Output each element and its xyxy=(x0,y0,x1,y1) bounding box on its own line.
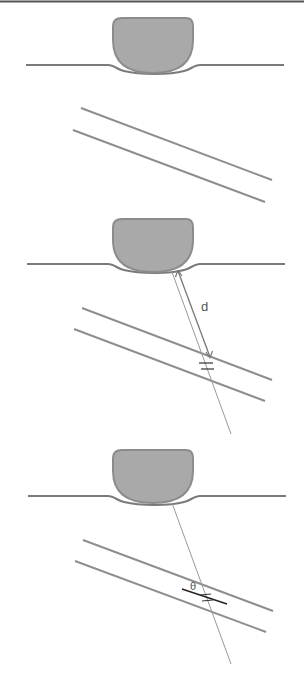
panel-1 xyxy=(26,18,284,202)
angle-mark-icon xyxy=(200,594,211,595)
panel-3: θ xyxy=(28,450,286,664)
layer-line-lower xyxy=(74,329,265,401)
blob-object xyxy=(113,450,193,503)
ray-line xyxy=(172,503,231,664)
diagram-canvas: d θ xyxy=(0,0,304,680)
angle-mark-icon xyxy=(202,600,213,601)
blob-object xyxy=(113,18,193,73)
distance-label: d xyxy=(201,299,208,314)
ray-line xyxy=(172,272,231,434)
panel-2: d xyxy=(27,219,285,434)
angle-label: θ xyxy=(190,580,196,592)
layer-line-upper xyxy=(82,308,272,380)
blob-object xyxy=(113,219,193,272)
distance-arrow xyxy=(178,271,210,357)
